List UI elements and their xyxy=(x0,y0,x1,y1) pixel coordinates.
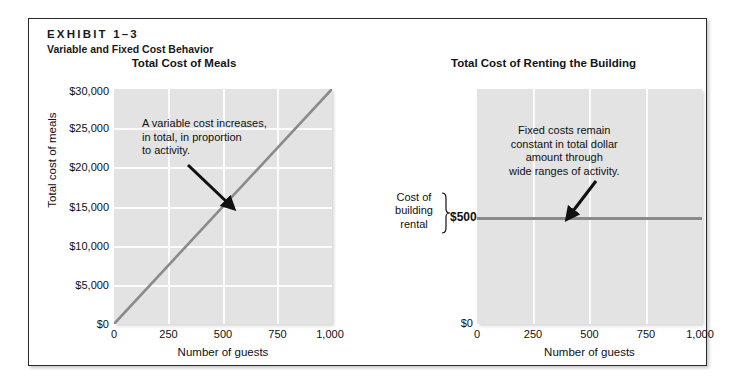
brace-label-line-3: rental xyxy=(389,218,439,231)
brace-label-line-2: building xyxy=(389,204,439,217)
x-tick-right-750: 750 xyxy=(637,328,655,340)
annotation-fixed-line-3: amount through xyxy=(509,151,619,165)
chart-title-left: Total Cost of Meals xyxy=(34,57,334,69)
y-tick-left-5000: $5,000 xyxy=(75,279,109,291)
annotation-variable-line-2: in total, in proportion xyxy=(142,131,267,145)
y-tick-left-0: $0 xyxy=(97,318,109,330)
x-tick-right-1000: 1,000 xyxy=(686,328,714,340)
annotation-fixed-line-1: Fixed costs remain xyxy=(509,124,619,138)
x-tick-right-250: 250 xyxy=(524,328,542,340)
annotation-fixed-line-4: wide ranges of activity. xyxy=(509,165,619,179)
brace-value-500: $500 xyxy=(450,210,477,224)
x-tick-right-0: 0 xyxy=(474,328,480,340)
x-axis-title-right: Number of guests xyxy=(477,346,702,358)
x-tick-left-1000: 1,000 xyxy=(316,328,344,340)
x-axis-title-left: Number of guests xyxy=(114,346,332,358)
gridline-v-right-750 xyxy=(646,89,648,324)
x-tick-right-500: 500 xyxy=(580,328,598,340)
annotation-fixed-cost: Fixed costs remain constant in total dol… xyxy=(509,124,619,178)
building-rental-cost-callout: Cost of building rental $500 xyxy=(389,191,484,243)
exhibit-frame: EXHIBIT 1–3 Variable and Fixed Cost Beha… xyxy=(28,18,707,366)
x-axis-ticks-right: 0 250 500 750 1,000 xyxy=(477,328,702,344)
annotation-variable-cost: A variable cost increases, in total, in … xyxy=(142,117,267,158)
y-tick-left-30000: $30,000 xyxy=(69,85,109,97)
fixed-cost-data-line xyxy=(477,217,702,220)
y-tick-left-10000: $10,000 xyxy=(69,240,109,252)
y-tick-right-0: $0 xyxy=(439,317,473,329)
annotation-variable-line-3: to activity. xyxy=(142,144,267,158)
chart-total-cost-of-renting: Total Cost of Renting the Building Cost … xyxy=(379,19,708,367)
x-tick-left-0: 0 xyxy=(111,328,117,340)
chart-title-right: Total Cost of Renting the Building xyxy=(379,57,708,69)
x-axis-ticks-left: 0 250 500 750 1,000 xyxy=(114,328,332,344)
x-tick-left-250: 250 xyxy=(159,328,177,340)
x-tick-left-500: 500 xyxy=(214,328,232,340)
x-tick-left-750: 750 xyxy=(268,328,286,340)
y-tick-left-15000: $15,000 xyxy=(69,201,109,213)
y-tick-left-20000: $20,000 xyxy=(69,161,109,173)
y-tick-left-25000: $25,000 xyxy=(69,122,109,134)
annotation-variable-line-1: A variable cost increases, xyxy=(142,117,267,131)
y-axis-ticks-left: $0 $5,000 $10,000 $15,000 $20,000 $25,00… xyxy=(29,89,109,324)
chart-total-cost-of-meals: Total Cost of Meals Total cost of meals … xyxy=(29,19,379,367)
annotation-fixed-line-2: constant in total dollar xyxy=(509,138,619,152)
brace-label-line-1: Cost of xyxy=(389,191,439,204)
brace-label-text: Cost of building rental xyxy=(389,191,439,231)
